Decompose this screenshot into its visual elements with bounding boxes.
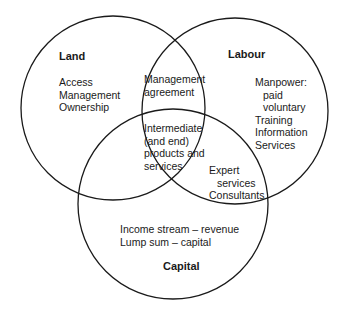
labour-item: Training bbox=[255, 114, 308, 127]
center-intersection: Intermediate (and end) products and serv… bbox=[144, 122, 205, 172]
labour-item: voluntary bbox=[255, 101, 308, 114]
intersection-item: (and end) bbox=[144, 135, 205, 148]
intersection-item: services bbox=[144, 160, 205, 173]
labour-title: Labour bbox=[228, 48, 265, 61]
land-item: Ownership bbox=[59, 101, 120, 114]
capital-item: Lump sum – capital bbox=[120, 236, 239, 249]
intersection-item: services bbox=[209, 177, 264, 190]
land-labour-intersection: Management agreement bbox=[144, 73, 205, 98]
intersection-item: Intermediate bbox=[144, 122, 205, 135]
capital-item: Income stream – revenue bbox=[120, 223, 239, 236]
capital-title: Capital bbox=[163, 260, 200, 273]
labour-item: Information bbox=[255, 126, 308, 139]
intersection-item: products and bbox=[144, 147, 205, 160]
labour-capital-intersection: Expert services Consultants bbox=[209, 164, 264, 202]
labour-item: Manpower: bbox=[255, 76, 308, 89]
land-items: Access Management Ownership bbox=[59, 76, 120, 114]
labour-item: paid bbox=[255, 89, 308, 102]
intersection-item: agreement bbox=[144, 86, 205, 99]
capital-items: Income stream – revenue Lump sum – capit… bbox=[120, 223, 239, 248]
labour-items: Manpower: paid voluntary Training Inform… bbox=[255, 76, 308, 151]
land-title: Land bbox=[59, 50, 85, 63]
intersection-item: Management bbox=[144, 73, 205, 86]
land-item: Access bbox=[59, 76, 120, 89]
land-item: Management bbox=[59, 89, 120, 102]
labour-item: Services bbox=[255, 139, 308, 152]
intersection-item: Expert bbox=[209, 164, 264, 177]
intersection-item: Consultants bbox=[209, 189, 264, 202]
